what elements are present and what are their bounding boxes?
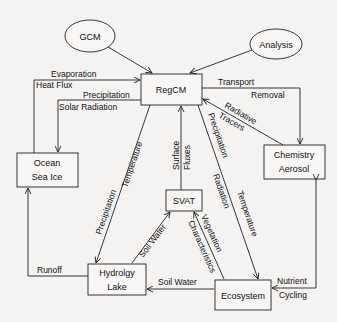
precipitation-ocean-label: Precipitation [83,90,130,100]
edge-nutrient-cycling [272,180,316,288]
chemistry-label-2: Aerosol [279,164,310,174]
surface-label: Surface [171,140,181,170]
analysis-label: Analysis [259,40,293,50]
transport-label: Transport [218,77,255,87]
svat-label: SVAT [173,196,196,206]
node-regcm: RegCM [141,74,202,105]
ocean-label-1: Ocean [34,158,61,168]
runoff-label: Runoff [37,265,63,275]
evaporation-label: Evaporation [51,69,97,79]
node-gcm: GCM [65,20,115,52]
temperature-eco-label: Temperature [235,189,260,238]
cycling-label: Cycling [279,290,307,300]
ecosystem-label: Ecosystem [221,291,265,301]
nutrient-label: Nutrient [277,276,307,286]
removal-label: Removal [251,90,285,100]
node-ecosystem: Ecosystem [215,280,271,310]
node-chemistry: Chemistry Aerosol [264,145,325,179]
regcm-diagram: GCM Analysis RegCM Ocean Sea Ice Chemist… [0,0,337,322]
node-analysis: Analysis [250,29,302,59]
node-ocean: Ocean Sea Ice [17,153,78,187]
soil-water-eco-label: Soil Water [158,277,197,287]
chemistry-label-1: Chemistry [274,150,315,160]
node-hydrology: Hydrolgy Lake [88,264,146,295]
edge-analysis-regcm [190,50,252,73]
heat-flux-label: Heat Flux [36,80,73,90]
regcm-label: RegCM [156,85,187,95]
solar-radiation-label: Solar Radiation [59,102,117,112]
ocean-label-2: Sea Ice [32,172,63,182]
node-svat: SVAT [166,190,202,211]
radiation-eco-label: Radiation [211,172,232,209]
gcm-label: GCM [80,32,101,42]
hydrology-label-2: Lake [107,282,127,292]
hydrology-label-1: Hydrolgy [99,268,135,278]
fluxes-label: Fluxes [182,145,192,170]
edge-gcm-regcm [108,47,152,73]
temperature-hydro-label: Temperature [119,140,144,189]
soil-water-svat-label: Soil Water [137,222,168,259]
edge-runoff [28,188,88,276]
precipitation-hydro-label: Precipitation [93,188,118,236]
